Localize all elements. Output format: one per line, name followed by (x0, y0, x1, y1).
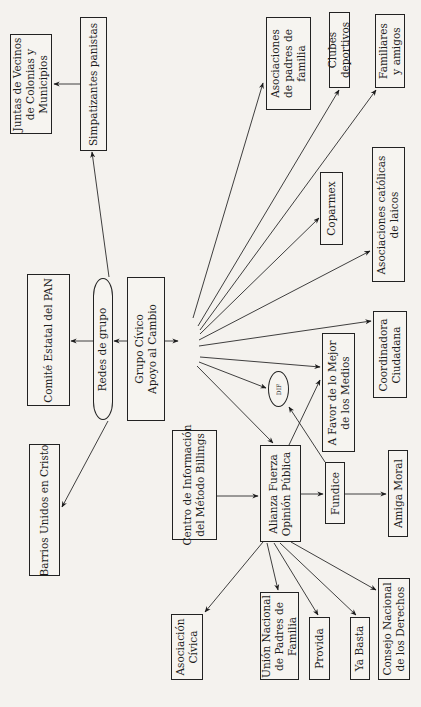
edge-hub-clubes (198, 90, 339, 326)
node-comite-label: Comité Estatal del PAN (42, 278, 55, 403)
node-juntas: Juntas de Vecinos de Colonias y Municipi… (10, 34, 52, 134)
edge-redes-simpatizantes (92, 152, 109, 277)
node-ya-basta-label: Ya Basta (354, 626, 367, 672)
node-consejo-label: Consejo Nacional de los Derechos (381, 582, 407, 675)
organization-network-diagram: Juntas de Vecinos de Colonias y Municipi… (0, 0, 421, 707)
edge-hub-dif (199, 362, 266, 388)
node-centro: Centro de Información del Método Billing… (172, 430, 217, 540)
edge-hub-asoc-catolicas (199, 251, 370, 340)
edge-alianza-union-nacional (267, 543, 278, 590)
node-grupo-civico: Grupo Cívico Apoyo al Cambio (127, 277, 165, 421)
node-grupo-civico-label: Grupo Cívico Apoyo al Cambio (133, 304, 159, 394)
node-a-favor: A Favor de lo Mejor de los Medios (322, 333, 355, 452)
node-alianza: Alianza Fuerza Opinión Pública (260, 445, 301, 542)
edge-hub-a-favor (200, 357, 320, 367)
node-asoc-civica-label: Asociación Cívica (174, 618, 200, 675)
node-amiga-moral-label: Amiga Moral (392, 459, 405, 528)
edge-alianza-asoc-civica (205, 542, 263, 612)
node-a-favor-label: A Favor de lo Mejor de los Medios (326, 340, 352, 445)
node-ya-basta: Ya Basta (350, 617, 370, 680)
node-barrios: Barrios Unidos en Cristo (29, 444, 60, 576)
node-union-nacional: Unión Nacional de Padres de Familia (260, 592, 299, 680)
node-coparmex: Coparmex (320, 172, 343, 245)
node-asoc-catolicas: Asociaciones católicas de laicos (372, 147, 405, 282)
node-dif: DIF (268, 371, 289, 407)
node-dif-label: DIF (272, 383, 285, 394)
node-clubes: Clubes deportivos (329, 12, 350, 88)
node-provida-label: Provida (313, 628, 326, 669)
node-comite: Comité Estatal del PAN (27, 274, 70, 406)
node-asoc-padres: Asociaciones de padres de familia (266, 17, 311, 110)
node-amiga-moral: Amiga Moral (388, 450, 408, 537)
node-coparmex-label: Coparmex (325, 181, 338, 235)
node-asoc-catolicas-label: Asociaciones católicas de laicos (376, 155, 402, 274)
node-simpatizantes-label: Simpatizantes panistas (87, 22, 100, 145)
node-redes: Redes de grupo (93, 278, 113, 420)
node-coordinadora-label: Coordinadora Ciudadana (377, 318, 403, 391)
node-asoc-padres-label: Asociaciones de padres de familia (269, 29, 308, 98)
node-familiares: Familiares y amigos (375, 14, 405, 88)
node-familiares-label: Familiares y amigos (377, 23, 403, 79)
node-alianza-label: Alianza Fuerza Opinión Pública (268, 451, 294, 536)
node-coordinadora: Coordinadora Ciudadana (373, 311, 407, 398)
node-centro-label: Centro de Información del Método Billing… (182, 425, 208, 546)
node-consejo: Consejo Nacional de los Derechos (378, 578, 410, 680)
edge-redes-barrios (62, 421, 108, 507)
node-union-nacional-label: Unión Nacional de Padres de Familia (260, 595, 299, 678)
edge-alianza-a-favor (289, 380, 320, 445)
node-provida: Provida (309, 617, 330, 680)
node-fundice: Fundice (325, 462, 345, 524)
node-fundice-label: Fundice (329, 472, 342, 515)
node-juntas-label: Juntas de Vecinos de Colonias y Municipi… (12, 37, 51, 131)
node-redes-label: Redes de grupo (97, 307, 110, 391)
node-clubes-label: Clubes deportivos (327, 22, 353, 78)
node-asoc-civica: Asociación Cívica (171, 614, 203, 680)
node-simpatizantes: Simpatizantes panistas (80, 17, 107, 151)
node-barrios-label: Barrios Unidos en Cristo (38, 444, 51, 576)
